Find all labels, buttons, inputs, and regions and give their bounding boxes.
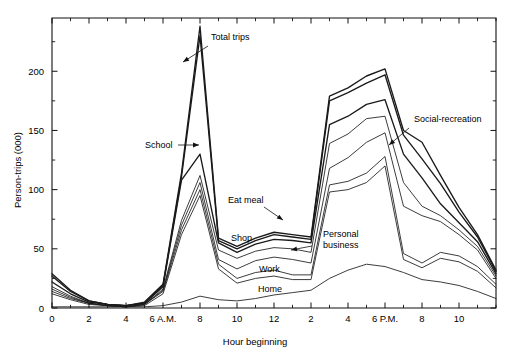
person-trips-line-chart: 0246 A.M.81012246 P.M.810 050100150200 T… [0,0,511,358]
series-annotation-label: Personal [323,229,359,239]
x-tick-label: 4 [345,313,350,324]
series-annotation-label: Eat meal [228,195,264,205]
y-tick-label: 50 [33,243,44,254]
x-tick-label: 0 [49,313,54,324]
series-annotation-label: business [323,240,359,250]
series-annotation-label: Home [258,284,282,294]
y-tick-label: 150 [28,125,44,136]
series-annotation-label: Shop [231,233,252,243]
series-annotation-label: School [145,140,173,150]
chart-figure: 0246 A.M.81012246 P.M.810 050100150200 T… [0,0,511,358]
x-axis-title: Hour beginning [223,336,287,347]
x-tick-label: 6 A.M. [150,313,177,324]
y-tick-label: 100 [28,184,44,195]
annotation-arrow-icon [183,57,189,62]
series-annotation-label: Social-recreation [414,114,482,124]
annotation-arrow-icon [193,143,199,148]
x-tick-label: 6 P.M. [372,313,398,324]
y-axis-tick-labels: 050100150200 [28,66,44,314]
y-axis-title: Person-trips (000) [12,132,23,208]
x-axis-tick-labels: 0246 A.M.81012246 P.M.810 [49,313,464,324]
annotation-arrow-icon [277,215,283,220]
series-line [52,116,496,307]
x-tick-label: 10 [454,313,465,324]
y-tick-label: 0 [39,303,44,314]
annotation-leaders [178,46,409,251]
x-tick-label: 12 [269,313,280,324]
x-tick-label: 2 [86,313,91,324]
x-tick-label: 4 [123,313,128,324]
x-tick-label: 8 [419,313,424,324]
x-tick-label: 8 [197,313,202,324]
x-tick-label: 2 [308,313,313,324]
series-annotation-label: Work [259,264,280,274]
y-tick-label: 200 [28,66,44,77]
x-tick-label: 10 [232,313,243,324]
series-line [52,100,496,306]
series-annotation-label: Total trips [211,32,250,42]
